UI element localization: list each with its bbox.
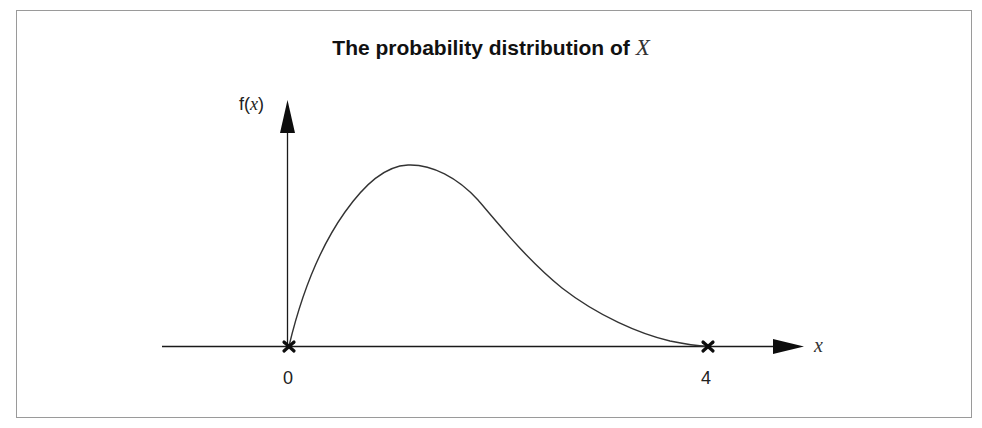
y-axis-arrow-icon (280, 100, 295, 133)
density-curve (289, 165, 708, 347)
x-axis-arrow-icon (773, 339, 804, 354)
plot-area (0, 0, 982, 428)
